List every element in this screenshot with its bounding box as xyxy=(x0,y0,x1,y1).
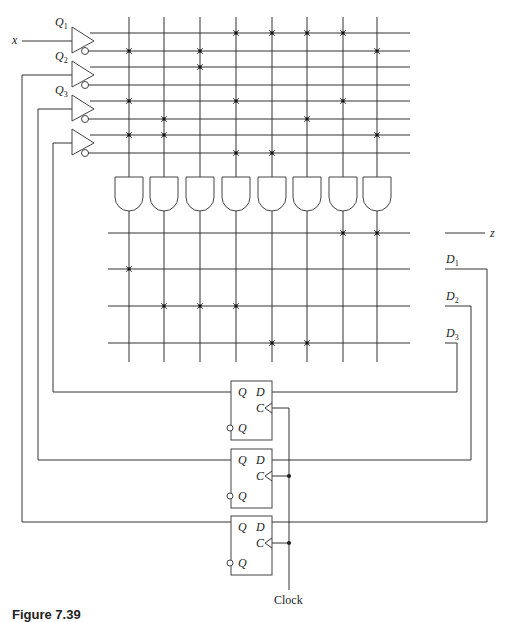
ff-c-label: C xyxy=(256,401,265,415)
input-label-q3: Q3 xyxy=(55,83,68,99)
ff-qbar-label: Q xyxy=(238,421,247,435)
figure-caption: Figure 7.39 xyxy=(12,607,81,622)
and-gate-2 xyxy=(186,177,214,211)
ff-q-label: Q xyxy=(238,453,247,467)
ff-qbar-label: Q xyxy=(238,556,247,570)
ff-d-label: D xyxy=(255,520,265,534)
d1-wire xyxy=(272,269,487,522)
and-gate-3 xyxy=(222,177,250,211)
or-label-d2: D2 xyxy=(445,289,459,305)
inversion-bubble-icon xyxy=(227,493,233,499)
inversion-bubble-icon xyxy=(227,425,233,431)
d2-wire xyxy=(272,306,471,460)
inversion-bubble-icon xyxy=(82,116,89,123)
and-gate-0 xyxy=(115,177,143,211)
inversion-bubble-icon xyxy=(82,48,89,55)
ff-d-label: D xyxy=(255,453,265,467)
and-gate-7 xyxy=(363,177,391,211)
or-label-d3: D3 xyxy=(445,326,459,342)
and-gate-1 xyxy=(150,177,178,211)
ff-q-label: Q xyxy=(238,385,247,399)
ff-c-label: C xyxy=(256,469,265,483)
input-label-q2: Q2 xyxy=(55,49,68,65)
inversion-bubble-icon xyxy=(82,150,89,157)
output-label-z: z xyxy=(489,226,495,240)
inversion-bubble-icon xyxy=(227,560,233,566)
d3-wire xyxy=(272,343,457,392)
inversion-bubble-icon xyxy=(82,82,89,89)
ff-c-label: C xyxy=(256,536,265,550)
input-label-x: x xyxy=(11,33,18,47)
ff-d-label: D xyxy=(255,385,265,399)
and-gate-6 xyxy=(329,177,357,211)
or-label-d1: D1 xyxy=(445,252,459,268)
and-gate-4 xyxy=(258,177,286,211)
ff-q-label: Q xyxy=(238,520,247,534)
and-gate-5 xyxy=(293,177,321,211)
ff-qbar-label: Q xyxy=(238,489,247,503)
input-label-q1: Q1 xyxy=(55,15,68,31)
feedback-wire-q2 xyxy=(38,109,231,460)
clock-label: Clock xyxy=(274,593,303,607)
